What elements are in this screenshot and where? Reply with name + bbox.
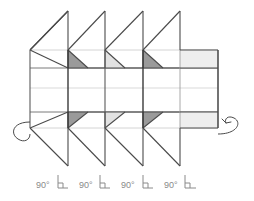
panel-band-bottom: [180, 112, 218, 128]
right-panel-bands: [180, 50, 218, 128]
angle-annotation-4: 90°: [164, 175, 196, 190]
angle-label-4: 90°: [164, 180, 178, 190]
fold-diagram: 90° 90° 90°: [0, 0, 254, 201]
light-shaded-triangles: [105, 50, 125, 128]
angle-annotation-2: 90°: [79, 175, 110, 190]
angle-label-2: 90°: [79, 180, 93, 190]
rotation-arrow-right: [218, 117, 238, 134]
angle-annotation-1: 90°: [36, 175, 68, 190]
fold-pattern-figure: 90° 90° 90°: [0, 0, 254, 201]
angle-annotation-3: 90°: [121, 175, 153, 190]
angle-label-1: 90°: [36, 180, 50, 190]
rotation-arrow-left: [14, 122, 30, 141]
right-angle-mark-3: [143, 175, 153, 188]
panel-band-top: [180, 50, 218, 68]
right-angle-mark-4: [185, 175, 196, 188]
angle-annotations: 90° 90° 90°: [36, 175, 196, 190]
angle-label-3: 90°: [121, 180, 135, 190]
right-angle-mark-2: [100, 175, 110, 188]
right-angle-mark-1: [58, 175, 68, 188]
